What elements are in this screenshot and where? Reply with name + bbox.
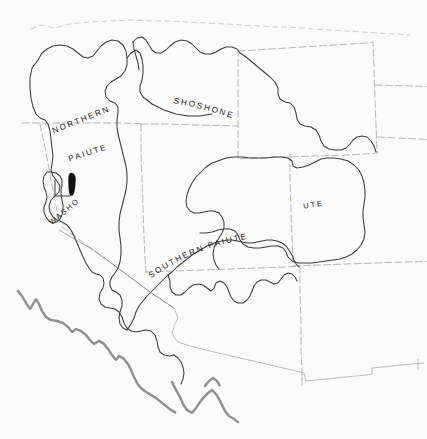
state-border-utah-colorado (290, 154, 293, 266)
map-figure: NORTHERN PAIUTE SHOSHONE UTE WASHO SOUTH… (0, 0, 427, 439)
territory-outline-shoshone-north (133, 37, 240, 54)
territory-outline-shoshone-east (240, 53, 376, 152)
state-border-wyoming (238, 42, 378, 159)
border-mexico (172, 310, 424, 381)
label-ute: UTE (302, 199, 324, 211)
state-border-north (31, 20, 410, 35)
label-paiute: PAIUTE (67, 143, 108, 164)
map-labels-group: NORTHERN PAIUTE SHOSHONE UTE WASHO SOUTH… (47, 96, 324, 280)
map-canvas: NORTHERN PAIUTE SHOSHONE UTE WASHO SOUTH… (0, 0, 427, 439)
territory-outline-sp-south (168, 273, 297, 303)
state-border-colorado-south (293, 262, 427, 267)
pacific-coastline (18, 291, 238, 422)
label-northern: NORTHERN (51, 104, 112, 135)
territory-outline-ute (200, 157, 365, 263)
lake-tahoe (68, 173, 75, 196)
label-washo: WASHO (47, 196, 81, 227)
label-shoshone: SHOSHONE (173, 96, 236, 120)
label-southern-paiute: SOUTHERN PAIUTE (147, 232, 248, 280)
state-border-colorado-east-spur (378, 137, 427, 140)
territory-outline-northern-paiute (30, 53, 174, 356)
territory-outline-np-east (110, 134, 127, 330)
territory-outline-np-shoshone-divide (127, 50, 147, 100)
state-border-arizona-newmexico (300, 266, 302, 388)
territory-outline-colorado-river (174, 355, 184, 384)
state-border-wyoming-east-spur (375, 85, 427, 87)
territory-outline-shoshone-west (133, 42, 139, 70)
state-border-nevada-utah (141, 124, 146, 272)
state-border-idaho-south (141, 124, 238, 126)
